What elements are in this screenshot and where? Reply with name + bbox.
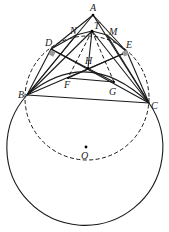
segment-bt [27,31,92,95]
label-d: D [44,37,53,48]
label-c: C [151,100,158,111]
geometry-diagram: A T N M D E H F G B C O [0,0,169,232]
point-t [91,30,94,33]
label-o: O [81,150,88,161]
segment-ct [92,31,149,103]
point-h [87,67,89,69]
label-e: E [125,39,132,50]
segment-bc [27,95,149,103]
label-b: B [18,89,24,100]
segment-cd [51,49,149,103]
label-h: H [84,55,93,66]
label-f: F [63,79,71,90]
point-o [85,146,88,149]
label-m: M [108,26,118,37]
segment-ce [127,52,149,103]
label-g: G [109,86,116,97]
label-n: N [69,25,78,36]
label-a: A [89,2,97,13]
point-g [113,81,115,83]
right-angle-marker-e [122,50,129,57]
point-a [92,14,95,17]
